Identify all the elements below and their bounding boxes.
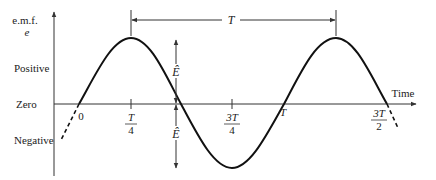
tick-label-T4-den: 4 (128, 124, 134, 136)
curve-extension-right (387, 104, 398, 128)
y-axis-symbol: e (25, 26, 30, 38)
emf-sine-curve (79, 38, 387, 168)
level-zero: Zero (16, 98, 37, 110)
tick-label-3T2-den: 2 (376, 120, 382, 132)
level-negative: Negative (14, 134, 54, 146)
period-label: T (228, 13, 236, 27)
tick-label-3T2-num: 3T (372, 107, 386, 119)
tick-label-3T4-num: 3T (225, 111, 239, 123)
tick-label-T: T (280, 106, 287, 118)
y-axis-label: e.m.f. (12, 14, 38, 26)
curve-extension-left (61, 104, 79, 140)
tick-label-3T4-den: 4 (229, 124, 235, 136)
amplitude-label-negative: Ê (171, 127, 180, 141)
tick-label-T4-num: T (128, 111, 135, 123)
emf-waveform-diagram: T Ê Ê e.m.f. e Positive Zero Negative Ti… (0, 0, 436, 180)
amplitude-label-positive: Ê (171, 65, 180, 79)
level-positive: Positive (14, 62, 50, 74)
tick-label-0: 0 (78, 110, 84, 122)
x-axis-label: Time (392, 87, 415, 99)
